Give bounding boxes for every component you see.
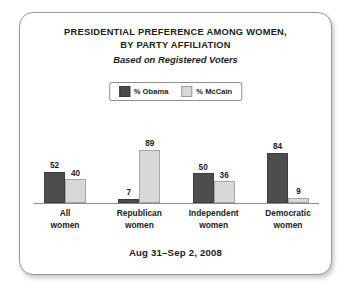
category-label: Allwomen	[27, 207, 103, 232]
bar-column: 84	[267, 121, 288, 203]
legend-swatch-obama-icon	[119, 86, 130, 97]
chart-subtitle: Based on Registered Voters	[20, 52, 331, 67]
bar-value-label: 50	[199, 163, 208, 172]
bar-obama	[267, 153, 288, 203]
bar-column: 36	[214, 121, 235, 203]
chart-category-labels: AllwomenRepublicanwomenIndependentwomenD…	[34, 207, 319, 243]
category-label-line: Independent	[176, 207, 252, 219]
bar-mccain	[65, 179, 86, 203]
bar-value-label: 36	[220, 171, 229, 180]
category-label: Independentwomen	[176, 207, 252, 232]
bar-group: 5036	[183, 121, 245, 203]
chart-plot-area: 52407895036849	[34, 121, 319, 203]
bar-column: 50	[193, 121, 214, 203]
bar-value-label: 89	[145, 139, 154, 148]
bar-column: 52	[44, 121, 65, 203]
bar-column: 40	[65, 121, 86, 203]
bar-obama	[193, 173, 214, 203]
category-label-line: women	[101, 219, 177, 231]
bar-mccain	[139, 150, 160, 203]
bar-group: 5240	[34, 121, 96, 203]
chart-card: PRESIDENTIAL PREFERENCE AMONG WOMEN, BY …	[19, 12, 332, 275]
category-label-line: women	[27, 219, 103, 231]
bar-value-label: 52	[50, 161, 59, 170]
chart-footnote: Aug 31–Sep 2, 2008	[20, 247, 331, 258]
legend-label-obama: % Obama	[134, 87, 169, 96]
chart-baseline-axis	[34, 203, 319, 204]
legend-swatch-mccain-icon	[181, 86, 192, 97]
legend-item-obama: % Obama	[119, 86, 169, 97]
bar-pair: 5240	[44, 121, 86, 203]
chart-title-line-2: BY PARTY AFFILIATION	[20, 39, 331, 52]
bar-pair: 5036	[193, 121, 235, 203]
category-label-line: All	[27, 207, 103, 219]
bar-obama	[44, 172, 65, 203]
category-label-line: women	[250, 219, 326, 231]
bar-group: 849	[257, 121, 319, 203]
category-label: Republicanwomen	[101, 207, 177, 232]
bar-pair: 849	[267, 121, 309, 203]
legend-item-mccain: % McCain	[181, 86, 232, 97]
category-label-line: Democratic	[250, 207, 326, 219]
chart-title-line-1: PRESIDENTIAL PREFERENCE AMONG WOMEN,	[20, 26, 331, 39]
category-label: Democraticwomen	[250, 207, 326, 232]
chart-title-block: PRESIDENTIAL PREFERENCE AMONG WOMEN, BY …	[20, 26, 331, 67]
bar-value-label: 7	[127, 188, 132, 197]
bar-pair: 789	[118, 121, 160, 203]
bar-column: 9	[288, 121, 309, 203]
bar-value-label: 84	[273, 142, 282, 151]
chart-legend: % Obama % McCain	[109, 82, 242, 101]
bar-column: 89	[139, 121, 160, 203]
bar-group: 789	[108, 121, 170, 203]
bar-mccain	[214, 181, 235, 203]
legend-label-mccain: % McCain	[196, 87, 232, 96]
category-label-line: Republican	[101, 207, 177, 219]
bar-value-label: 9	[296, 187, 301, 196]
category-label-line: women	[176, 219, 252, 231]
bar-column: 7	[118, 121, 139, 203]
bar-value-label: 40	[71, 169, 80, 178]
